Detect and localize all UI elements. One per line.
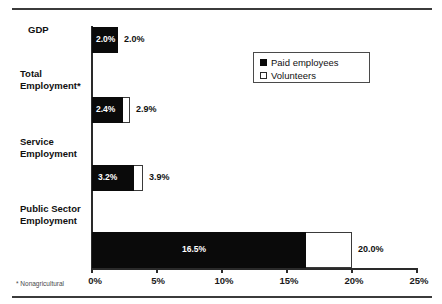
x-tick-label-4: 20%	[344, 275, 363, 286]
category-label-public-sector-employment: Public Sector Employment	[20, 203, 81, 226]
bar-total-label-service-employment: 3.9%	[149, 172, 170, 182]
bar-value-paid-gdp: 2.0%	[96, 34, 115, 44]
bar-total-label-total-employment: 2.9%	[136, 104, 157, 114]
category-label-total-employment: Total Employment*	[20, 68, 81, 91]
x-tick-label-5: 25%	[409, 275, 428, 286]
chart-figure: 0% 5% 10% 15% 20% 25% GDP Total Employme…	[0, 0, 442, 304]
legend-label-paid-employees: Paid employees	[271, 57, 339, 68]
plot-area: 0% 5% 10% 15% 20% 25% GDP Total Employme…	[0, 0, 442, 304]
category-label-gdp: GDP	[28, 24, 49, 36]
x-tick-0	[91, 268, 93, 273]
x-tick-label-2: 10%	[214, 275, 233, 286]
chart-footnote: * Nonagricultural	[16, 280, 64, 287]
x-tick-label-1: 5%	[151, 275, 165, 286]
open-square-icon	[260, 72, 267, 79]
x-tick-4	[351, 268, 353, 273]
chart-legend: Paid employees Volunteers	[253, 52, 370, 83]
x-tick-1	[156, 268, 158, 273]
legend-label-volunteers: Volunteers	[271, 70, 316, 81]
legend-item-volunteers: Volunteers	[260, 69, 369, 82]
x-tick-2	[221, 268, 223, 273]
bar-value-paid-public-sector-employment: 16.5%	[182, 244, 206, 254]
bar-total-label-gdp: 2.0%	[124, 34, 145, 44]
x-tick-5	[416, 268, 418, 273]
bar-value-paid-total-employment: 2.4%	[96, 104, 115, 114]
x-tick-3	[286, 268, 288, 273]
x-axis-line	[92, 268, 418, 270]
x-tick-label-3: 15%	[279, 275, 298, 286]
filled-square-icon	[260, 59, 267, 66]
bar-value-paid-service-employment: 3.2%	[98, 172, 117, 182]
x-tick-label-0: 0%	[88, 275, 102, 286]
bar-total-label-public-sector-employment: 20.0%	[358, 244, 384, 254]
category-label-service-employment: Service Employment	[20, 136, 77, 159]
legend-item-paid-employees: Paid employees	[260, 56, 369, 69]
